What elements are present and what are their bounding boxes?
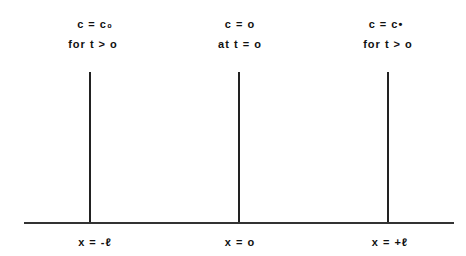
center-condition-bottom: at t = o bbox=[218, 38, 262, 50]
right-boundary-line bbox=[387, 72, 389, 223]
right-condition-top: c = c• bbox=[369, 18, 404, 30]
x-axis bbox=[24, 222, 454, 224]
right-position-label: x = +ℓ bbox=[372, 236, 408, 248]
left-condition-top: c = c₀ bbox=[77, 18, 113, 30]
left-boundary-line bbox=[89, 72, 91, 223]
left-condition-bottom: for t > o bbox=[68, 38, 118, 50]
center-condition-top: c = o bbox=[225, 18, 255, 30]
center-boundary-line bbox=[238, 72, 240, 223]
left-position-label: x = -ℓ bbox=[78, 236, 112, 248]
right-condition-bottom: for t > o bbox=[363, 38, 413, 50]
center-position-label: x = o bbox=[225, 236, 255, 248]
